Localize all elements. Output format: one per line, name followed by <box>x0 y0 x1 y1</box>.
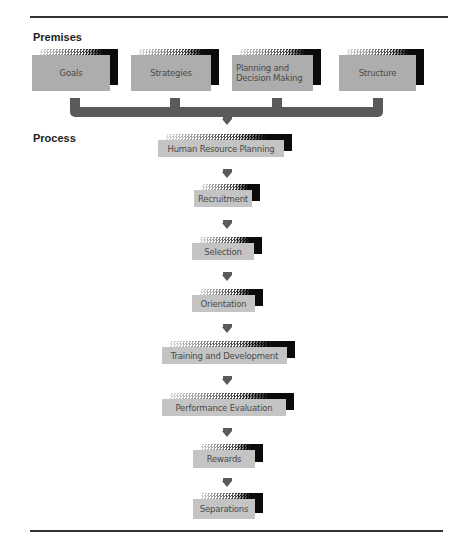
down-arrow-icon <box>222 327 232 333</box>
top-rule <box>30 16 448 18</box>
premise-label: Planning and Decision Making <box>232 55 313 91</box>
process-step-training: Training and Development <box>162 347 287 364</box>
bottom-rule <box>30 530 443 532</box>
process-step-label: Recruitment <box>194 190 252 207</box>
down-arrow-icon <box>222 379 232 385</box>
premise-box-goals: Goals <box>32 55 110 91</box>
process-step-label: Training and Development <box>162 347 287 364</box>
premises-heading: Premises <box>33 31 82 43</box>
premise-box-strategies: Strategies <box>131 55 211 91</box>
process-step-label: Orientation <box>192 295 255 312</box>
down-arrow-icon <box>222 275 232 281</box>
process-step-label: Selection <box>192 243 254 260</box>
process-step-hr-planning: Human Resource Planning <box>158 140 284 157</box>
down-arrow-icon <box>222 481 232 487</box>
premise-label: Strategies <box>131 55 211 91</box>
bracket-arrow-icon <box>222 119 232 125</box>
process-step-performance-evaluation: Performance Evaluation <box>162 399 286 416</box>
process-step-selection: Selection <box>192 243 254 260</box>
process-step-orientation: Orientation <box>192 295 255 312</box>
process-step-rewards: Rewards <box>193 450 255 468</box>
down-arrow-icon <box>222 172 232 178</box>
process-step-label: Rewards <box>193 450 255 468</box>
process-heading: Process <box>33 132 76 144</box>
premise-box-planning: Planning and Decision Making <box>232 55 313 91</box>
premise-label: Goals <box>32 55 110 91</box>
premise-label: Structure <box>339 55 416 91</box>
process-step-label: Human Resource Planning <box>158 140 284 157</box>
process-step-label: Separations <box>193 499 255 519</box>
down-arrow-icon <box>222 223 232 229</box>
premise-box-structure: Structure <box>339 55 416 91</box>
down-arrow-icon <box>222 431 232 437</box>
process-step-recruitment: Recruitment <box>194 190 252 207</box>
process-step-label: Performance Evaluation <box>162 399 286 416</box>
process-step-separations: Separations <box>193 499 255 519</box>
